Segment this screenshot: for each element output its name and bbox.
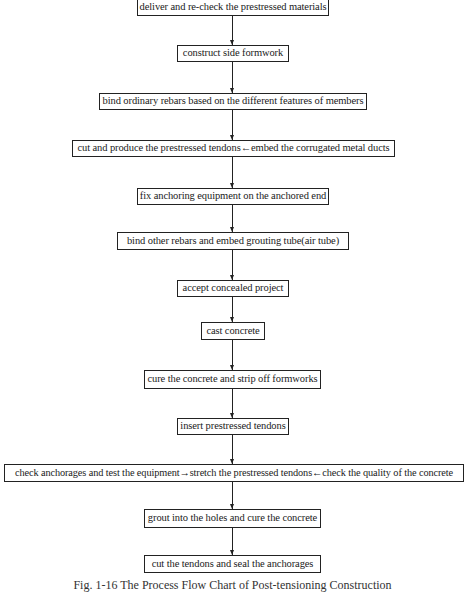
step-box-cure-strip-formworks: cure the concrete and strip off formwork… <box>144 370 321 389</box>
flow-arrow <box>232 62 233 93</box>
step-box-deliver-materials: deliver and re-check the prestressed mat… <box>137 0 329 16</box>
flow-arrow <box>232 250 233 280</box>
step-box-check-stretch-tendons: check anchorages and test the equipment→… <box>4 464 464 482</box>
flow-arrow <box>232 157 233 188</box>
figure-caption: Fig. 1-16 The Process Flow Chart of Post… <box>0 578 465 593</box>
step-box-bind-ordinary-rebars: bind ordinary rebars based on the differ… <box>99 93 367 110</box>
flow-arrow <box>232 482 233 509</box>
flow-arrow <box>232 528 233 555</box>
flow-arrow <box>232 297 233 322</box>
step-box-grout-cure: grout into the holes and cure the concre… <box>144 509 321 528</box>
flow-arrow <box>232 389 233 418</box>
step-box-cut-tendons-embed-ducts: cut and produce the prestressed tendons←… <box>72 140 395 157</box>
step-box-cut-tendons-seal-anchorages: cut the tendons and seal the anchorages <box>144 555 321 573</box>
step-box-bind-other-rebars: bind other rebars and embed grouting tub… <box>117 232 349 250</box>
step-box-cast-concrete: cast concrete <box>201 322 265 340</box>
flow-arrow <box>232 340 233 370</box>
flow-arrow <box>232 435 233 464</box>
flow-arrow <box>232 205 233 232</box>
flow-arrow <box>232 110 233 140</box>
step-box-insert-tendons: insert prestressed tendons <box>177 418 289 435</box>
step-box-accept-concealed-project: accept concealed project <box>177 280 289 297</box>
step-box-fix-anchoring-equipment: fix anchoring equipment on the anchored … <box>137 188 329 205</box>
flow-arrow <box>232 16 233 45</box>
step-box-side-formwork: construct side formwork <box>177 45 289 62</box>
